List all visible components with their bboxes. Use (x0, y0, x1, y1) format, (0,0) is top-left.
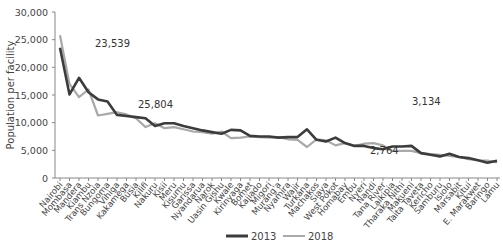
data-annotation: 25,804 (138, 99, 173, 110)
legend-label-2018: 2018 (308, 231, 333, 242)
y-tick-label: 0 (42, 173, 48, 184)
legend-label-2013: 2013 (251, 231, 276, 242)
y-axis: 05,00010,00015,00020,00025,00030,000 (15, 7, 55, 184)
y-tick-label: 5,000 (21, 145, 48, 156)
data-annotation: 2,764 (370, 145, 399, 156)
data-annotation: 3,134 (412, 96, 441, 107)
y-tick-label: 15,000 (15, 90, 48, 101)
x-axis: NairobiMombasaManderaKiambuTrans NzoiaBu… (37, 178, 501, 231)
legend: 2013 2018 (226, 231, 333, 242)
data-annotation: 23,539 (95, 38, 130, 49)
line-chart: 05,00010,00015,00020,00025,00030,000 Pop… (0, 0, 503, 246)
y-tick-label: 25,000 (15, 34, 48, 45)
y-axis-label: Population per facility (5, 41, 16, 150)
y-tick-label: 10,000 (15, 117, 48, 128)
y-tick-label: 30,000 (15, 7, 48, 18)
y-tick-label: 20,000 (15, 62, 48, 73)
